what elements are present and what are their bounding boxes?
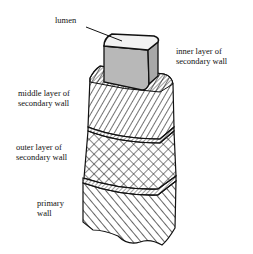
- label-inner-layer-1: inner layer of: [176, 46, 222, 56]
- label-outer-layer-1: outer layer of: [16, 142, 62, 152]
- inner-secondary-layer: [104, 34, 159, 90]
- label-lumen: lumen: [55, 15, 76, 25]
- label-outer-layer-2: secondary wall: [16, 152, 67, 162]
- cell-wall-diagram: lumen inner layer of secondary wall midd…: [0, 0, 253, 254]
- label-middle-layer-2: secondary wall: [18, 98, 69, 108]
- label-primary-wall-1: primary: [37, 198, 64, 208]
- label-inner-layer-2: secondary wall: [176, 56, 227, 66]
- label-primary-wall-2: wall: [37, 208, 52, 218]
- label-middle-layer-1: middle layer of: [18, 88, 70, 98]
